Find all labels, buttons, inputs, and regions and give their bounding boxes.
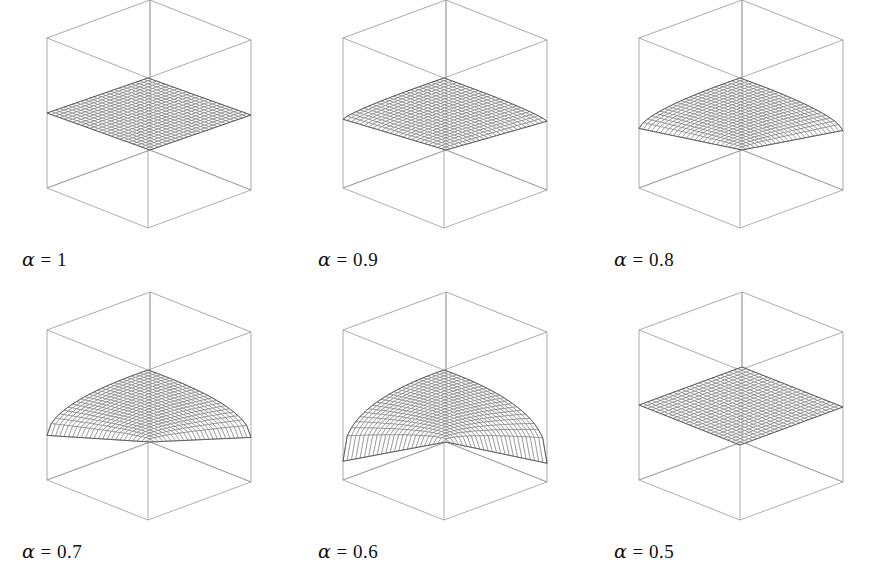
plot-panel-alpha-0-8: α = 0.8	[592, 0, 888, 291]
panel-label: α = 0.8	[614, 248, 674, 271]
alpha-value: 0.6	[353, 541, 378, 562]
alpha-symbol: α	[614, 540, 627, 562]
equals-sign: =	[633, 541, 644, 562]
equals-sign: =	[337, 541, 348, 562]
alpha-symbol: α	[318, 540, 331, 562]
plot-panel-alpha-0-5: α = 0.5	[592, 292, 888, 583]
wireframe-surface	[296, 292, 592, 540]
panel-label: α = 0.6	[318, 540, 378, 563]
alpha-value: 0.8	[649, 249, 674, 270]
panel-label: α = 0.5	[614, 540, 674, 563]
alpha-value: 0.9	[353, 249, 378, 270]
plot-canvas	[592, 292, 888, 540]
wireframe-surface	[296, 0, 592, 248]
alpha-value: 0.7	[57, 541, 82, 562]
panel-label: α = 0.7	[22, 540, 82, 563]
plot-canvas	[0, 292, 296, 540]
equals-sign: =	[633, 249, 644, 270]
alpha-symbol: α	[22, 540, 35, 562]
panel-label: α = 1	[22, 248, 67, 271]
plot-panel-alpha-0-7: α = 0.7	[0, 292, 296, 583]
alpha-value: 0.5	[649, 541, 674, 562]
plot-panel-alpha-0-6: α = 0.6	[296, 292, 592, 583]
wireframe-surface	[0, 0, 296, 248]
wireframe-surface	[592, 0, 888, 248]
alpha-symbol: α	[614, 248, 627, 270]
wireframe-surface	[0, 292, 296, 540]
alpha-symbol: α	[318, 248, 331, 270]
wireframe-surface	[592, 292, 888, 540]
equals-sign: =	[41, 249, 52, 270]
alpha-value: 1	[57, 249, 67, 270]
plot-panel-alpha-1: α = 1	[0, 0, 296, 291]
equals-sign: =	[337, 249, 348, 270]
plot-canvas	[296, 0, 592, 248]
surface-plot-figure: α = 1 α = 0.9 α = 0.8 α = 0.7 α =	[0, 0, 888, 583]
panel-label: α = 0.9	[318, 248, 378, 271]
plot-canvas	[592, 0, 888, 248]
alpha-symbol: α	[22, 248, 35, 270]
plot-canvas	[296, 292, 592, 540]
plot-canvas	[0, 0, 296, 248]
plot-panel-alpha-0-9: α = 0.9	[296, 0, 592, 291]
equals-sign: =	[41, 541, 52, 562]
